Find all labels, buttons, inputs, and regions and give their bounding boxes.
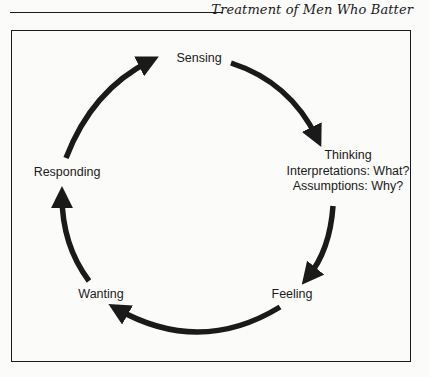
- arrow-feeling-to-wanting: [117, 307, 280, 332]
- arrow-thinking-to-feeling: [308, 206, 333, 277]
- arrow-sensing-to-thinking: [231, 63, 317, 138]
- arrow-responding-to-sensing: [66, 61, 150, 158]
- arrow-wanting-to-responding: [62, 196, 89, 281]
- node-sensing: Sensing: [176, 51, 221, 65]
- node-thinking-interpretations: Interpretations: What?: [287, 164, 410, 178]
- node-feeling: Feeling: [272, 287, 313, 301]
- node-thinking: Thinking: [324, 148, 371, 162]
- node-thinking-assumptions: Assumptions: Why?: [293, 179, 404, 193]
- node-wanting: Wanting: [78, 287, 123, 301]
- node-responding: Responding: [34, 165, 101, 179]
- cycle-diagram: Sensing Thinking Interpretations: What? …: [0, 0, 429, 377]
